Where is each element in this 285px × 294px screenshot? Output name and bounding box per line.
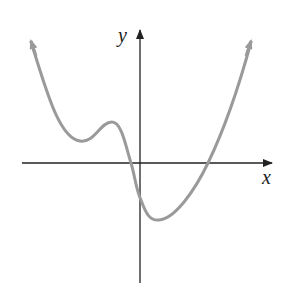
x-axis-label: x [261, 166, 271, 188]
y-axis-label: y [116, 24, 127, 47]
function-curve [31, 42, 251, 220]
graph: y x [0, 0, 285, 294]
